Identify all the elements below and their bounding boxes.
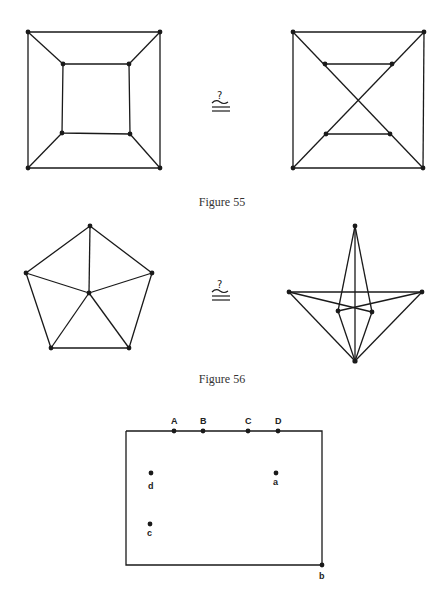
- point-label-D: D: [275, 416, 282, 426]
- point-label-b: b: [319, 571, 325, 581]
- figure57-labels: A B C D d a c b: [0, 0, 444, 592]
- point-label-A: A: [171, 416, 178, 426]
- point-label-C: C: [245, 416, 252, 426]
- point-label-B: B: [200, 416, 207, 426]
- point-label-c: c: [147, 528, 152, 538]
- point-label-a: a: [273, 477, 279, 487]
- point-label-d: d: [148, 481, 154, 491]
